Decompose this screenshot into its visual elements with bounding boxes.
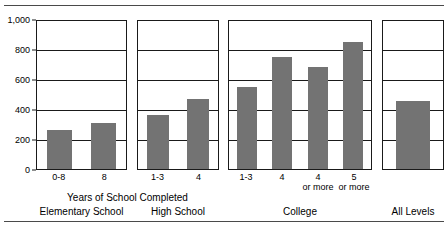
category-labels: 1-344or more5or more: [228, 172, 372, 192]
clipped-top-caption: [6, 0, 306, 4]
category-label: 4: [264, 172, 300, 192]
bar[interactable]: [272, 57, 292, 169]
bar-slot: [178, 21, 218, 169]
category-label: 1-3: [228, 172, 264, 192]
bar[interactable]: [237, 87, 257, 169]
bar-slot: [383, 21, 443, 169]
category-label: 1-3: [137, 172, 178, 182]
category-labels: 0-88: [36, 172, 127, 182]
bar-slot: [138, 21, 178, 169]
group-caption-elementary-school: Elementary School: [36, 206, 127, 217]
top-divider-rule: [4, 5, 444, 6]
category-label: 4or more: [300, 172, 336, 192]
bar-slot: [37, 21, 82, 169]
bar-group: [229, 21, 371, 169]
bar[interactable]: [308, 67, 328, 169]
group-caption-college: College: [228, 206, 372, 217]
group-caption-high-school: High School: [137, 206, 219, 217]
bar-group: [383, 21, 443, 169]
y-axis-tick-label: 400: [15, 106, 30, 115]
y-axis-tick-label: 800: [15, 46, 30, 55]
category-label: 0-8: [36, 172, 82, 182]
category-label: 5or more: [336, 172, 372, 192]
category-label: 4: [178, 172, 219, 182]
y-axis: 1,0008006004002000: [0, 14, 36, 176]
category-label-sub: or more: [300, 182, 336, 192]
category-labels: 1-34: [137, 172, 219, 182]
bar-slot: [265, 21, 301, 169]
bar-slot: [336, 21, 372, 169]
bar[interactable]: [343, 42, 363, 169]
x-axis-title: Years of School Completed: [36, 192, 219, 203]
bar-group: [37, 21, 126, 169]
bar[interactable]: [187, 99, 209, 169]
y-axis-tick-label: 0: [25, 166, 30, 175]
chart-panel-all-levels: [382, 20, 444, 170]
bar-chart-figure: 1,0008006004002000 0-881-341-344or more5…: [0, 0, 448, 233]
bottom-divider-rule: [4, 221, 444, 222]
bar[interactable]: [396, 101, 430, 169]
bar[interactable]: [91, 123, 116, 170]
bar[interactable]: [47, 130, 72, 169]
group-caption-all-levels: All Levels: [382, 206, 444, 217]
panels-container: 0-881-341-344or more5or more: [36, 20, 444, 170]
chart-panel-college: [228, 20, 372, 170]
bar-group: [138, 21, 218, 169]
chart-panel-elementary-school: [36, 20, 127, 170]
bar-slot: [82, 21, 127, 169]
category-label: 8: [82, 172, 128, 182]
bar-slot: [229, 21, 265, 169]
chart-panel-high-school: [137, 20, 219, 170]
y-axis-tick-label: 200: [15, 136, 30, 145]
bar[interactable]: [147, 115, 169, 169]
category-label-sub: or more: [336, 182, 372, 192]
bar-slot: [300, 21, 336, 169]
y-axis-tick-label: 600: [15, 76, 30, 85]
y-axis-tick-label: 1,000: [7, 16, 30, 25]
